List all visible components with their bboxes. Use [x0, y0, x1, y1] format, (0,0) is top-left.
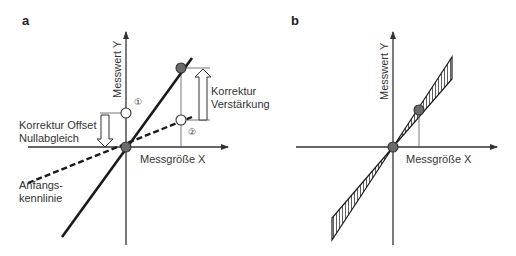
offset-point-open-circle [121, 108, 131, 118]
panel-a: a Messwert Y Messgröße X ① ② Korrektu [19, 13, 270, 245]
gain-correction-arrow [195, 69, 211, 120]
marker-2-label: ② [188, 127, 196, 137]
gain-correction-label-line2: Verstärkung [211, 98, 270, 110]
x-axis-label: Messgröße X [140, 153, 206, 165]
origin-dot-b [388, 142, 398, 152]
panel-b: b Messwert Y Messgröße X [291, 13, 497, 245]
offset-correction-label-line1: Korrektur Offset [19, 119, 96, 131]
y-axis-label-b: Messwert Y [378, 42, 390, 100]
initial-point-open-circle [176, 115, 186, 125]
tolerance-band-upper [393, 57, 452, 147]
initial-curve-label-line2: kennlinie [19, 192, 62, 204]
y-axis-label: Messwert Y [111, 40, 123, 98]
corrected-point-dot [176, 63, 186, 73]
panel-a-letter: a [22, 13, 30, 28]
panel-b-letter: b [291, 13, 299, 28]
measurement-point-dot [414, 105, 424, 115]
offset-correction-label-line2: Nullabgleich [19, 132, 79, 144]
initial-curve-label-line1: Anfangs- [19, 179, 63, 191]
x-axis-label-b: Messgröße X [406, 153, 472, 165]
origin-dot [121, 142, 131, 152]
tolerance-band-lower [332, 147, 393, 240]
marker-1-label: ① [134, 97, 142, 107]
figure-canvas: a Messwert Y Messgröße X ① ② Korrektu [0, 0, 516, 256]
gain-correction-label-line1: Korrektur [211, 85, 257, 97]
offset-correction-arrow [97, 115, 113, 147]
